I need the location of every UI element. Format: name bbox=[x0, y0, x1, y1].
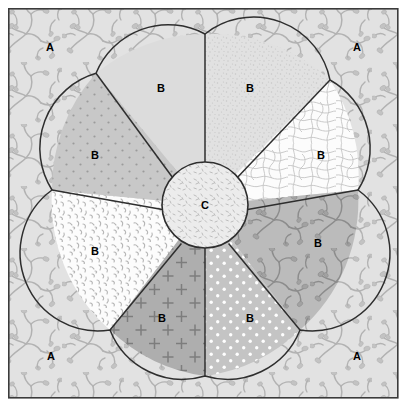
core-circle[interactable] bbox=[162, 162, 248, 248]
figure-canvas: A A A A B B B B B B B B C bbox=[0, 0, 407, 408]
rosette-diagram bbox=[0, 0, 407, 408]
